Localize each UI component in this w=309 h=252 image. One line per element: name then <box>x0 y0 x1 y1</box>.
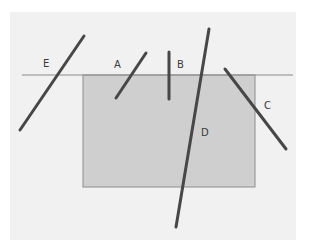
segment-label-d: D <box>201 127 209 138</box>
segment-label-b: B <box>177 59 184 70</box>
segment-label-e: E <box>43 58 49 69</box>
segment-label-a: A <box>114 59 121 70</box>
line-segments-diagram: ABCDE <box>0 0 309 252</box>
segment-label-c: C <box>264 100 271 111</box>
